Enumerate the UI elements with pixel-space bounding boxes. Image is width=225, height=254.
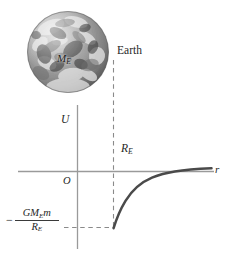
horizontal-axis-label: r bbox=[215, 164, 219, 175]
vertical-axis-label: U bbox=[61, 114, 69, 126]
potential-energy-curve bbox=[114, 168, 212, 228]
energy-fraction: GMEm RE bbox=[15, 208, 59, 232]
origin-label: O bbox=[63, 176, 71, 187]
surface-potential-energy-label: − GMEm RE bbox=[6, 208, 59, 232]
energy-numerator: GMEm bbox=[21, 208, 53, 220]
figure-container: ME Earth U r O RE − GMEm RE bbox=[0, 0, 225, 254]
earth-radius-label: RE bbox=[121, 143, 133, 155]
earth-name-label: Earth bbox=[117, 45, 142, 57]
minus-sign: − bbox=[6, 214, 13, 227]
energy-denominator: RE bbox=[29, 221, 44, 233]
